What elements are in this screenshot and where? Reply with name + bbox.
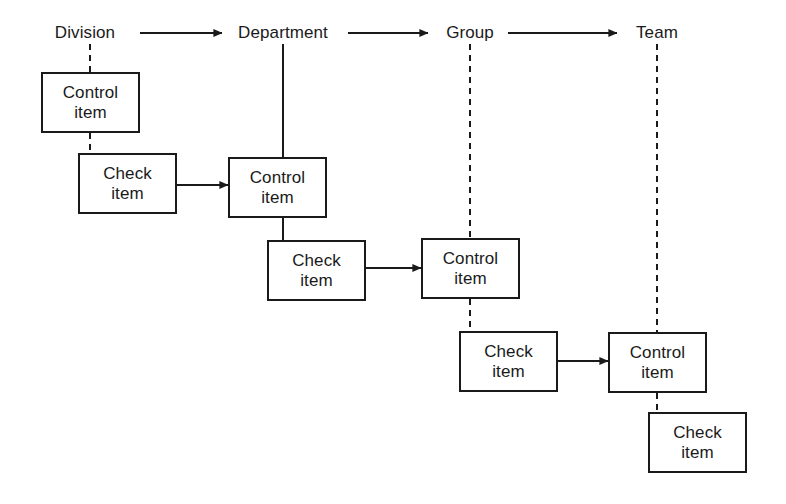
node-label-primary: Control: [443, 249, 499, 268]
node-label-primary: Check: [292, 251, 341, 270]
column-label-department: Department: [235, 23, 331, 43]
node-control-item-division: Controlitem: [41, 72, 140, 133]
node-check-item-department: Checkitem: [267, 240, 366, 301]
column-label-division: Division: [52, 23, 118, 43]
node-label-secondary: item: [681, 443, 714, 462]
node-label-secondary: item: [111, 184, 144, 203]
node-label-primary: Check: [673, 423, 722, 442]
node-label-secondary: item: [492, 362, 525, 381]
node-label-secondary: item: [74, 103, 107, 122]
node-control-item-team: Controlitem: [608, 332, 707, 393]
node-label-secondary: item: [641, 363, 674, 382]
column-label-team: Team: [633, 23, 681, 43]
node-label-secondary: item: [454, 269, 487, 288]
node-label-primary: Check: [484, 342, 533, 361]
node-label-primary: Control: [63, 83, 119, 102]
node-control-item-group: Controlitem: [421, 238, 520, 299]
vertical-connectors: [90, 44, 657, 412]
node-label-primary: Check: [103, 164, 152, 183]
column-label-group: Group: [443, 23, 497, 43]
node-label-primary: Control: [250, 168, 306, 187]
node-label-primary: Control: [630, 343, 686, 362]
node-label-secondary: item: [300, 271, 333, 290]
node-label-secondary: item: [261, 188, 294, 207]
diagram-canvas: DivisionDepartmentGroupTeam ControlitemC…: [0, 0, 786, 504]
node-check-item-division: Checkitem: [78, 153, 177, 214]
node-control-item-department: Controlitem: [228, 157, 327, 218]
node-check-item-group: Checkitem: [459, 331, 558, 392]
node-check-item-team: Checkitem: [648, 412, 747, 473]
